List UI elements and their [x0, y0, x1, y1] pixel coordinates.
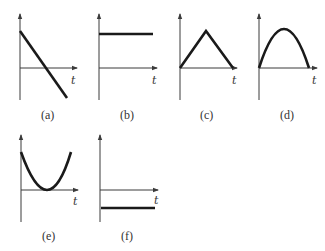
- triangle-curve: [180, 31, 233, 68]
- panel-e: t (e): [21, 135, 78, 243]
- downward-parabola-curve: [259, 29, 309, 68]
- t-axis-label: t: [71, 74, 76, 87]
- upward-parabola-curve: [21, 152, 71, 190]
- t-axis-label: t: [154, 194, 159, 207]
- panel-label: (f): [121, 229, 133, 243]
- panel-c: t (c): [180, 14, 237, 122]
- panel-f: t (f): [100, 135, 159, 243]
- t-axis-label: t: [232, 74, 237, 87]
- t-axis-label: t: [312, 74, 317, 87]
- panel-label: (e): [42, 229, 55, 243]
- graph-panels-figure: t (a) t (b) t (c) t (d) t (e) t: [0, 0, 325, 251]
- panel-label: (c): [200, 108, 213, 122]
- t-axis-label: t: [152, 74, 157, 87]
- panel-label: (d): [280, 108, 294, 122]
- panel-b: t (b): [99, 14, 157, 122]
- panel-label: (b): [120, 108, 134, 122]
- panel-label: (a): [41, 108, 54, 122]
- t-axis-label: t: [73, 195, 78, 208]
- panel-a: t (a): [20, 14, 77, 122]
- decreasing-line: [20, 31, 67, 98]
- panel-d: t (d): [259, 14, 317, 122]
